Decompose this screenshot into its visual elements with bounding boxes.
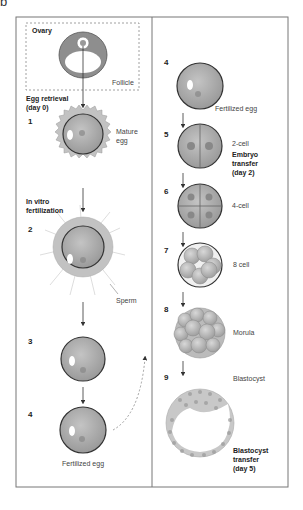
mature-egg-label-2: egg [116,137,128,145]
step-number: 4 [164,58,168,67]
blastocyst-label: Blastocyst [233,375,265,383]
embryo-transfer-line1: Embryo [232,150,258,159]
embryo-transfer-line3: (day 2) [232,168,255,177]
four-cell-label: 4-cell [232,202,249,210]
step-number: 7 [164,246,168,255]
follicle-label: Follicle [112,79,134,87]
mature-egg-label-1: Mature [116,128,138,136]
step-number: 9 [164,373,168,382]
blastocyst-icon [166,389,234,457]
morula-label: Morula [233,329,254,337]
in-vitro-label: In vitro [26,197,49,206]
step-number: 6 [164,187,168,196]
egg-retrieval-label: Egg retrieval [26,94,68,103]
four-cell-embryo-icon [178,184,222,228]
egg-step3-icon [61,337,105,381]
step-number: 2 [28,225,32,234]
step-number: 5 [164,130,168,139]
ovary-label: Ovary [32,26,52,35]
blastocyst-transfer-line3: (day 5) [233,464,256,473]
fertilization-label: fertilization [26,206,63,215]
fertilized-egg-right-icon [177,63,223,109]
ivf-diagram [0,0,303,510]
fertilized-egg-left-icon [60,407,106,453]
step-number: 4 [28,410,32,419]
eight-cell-embryo-icon [178,243,222,287]
dashed-transition-arrow [113,358,145,430]
fertilized-egg-right-label: Fertilized egg [215,105,257,113]
blastocyst-transfer-line2: transfer [233,455,259,464]
blastocyst-transfer-line1: Blastocyst [233,446,268,455]
egg-retrieval-day: (day 0) [26,103,49,112]
egg-with-sperm-icon [40,205,125,295]
two-cell-embryo-icon [178,124,222,168]
step-number: 8 [164,305,168,314]
step-number: 1 [28,117,32,126]
two-cell-label: 2-cell [232,140,249,148]
sperm-label: Sperm [116,297,137,305]
step-number: 3 [28,337,32,346]
embryo-transfer-line2: transfer [232,159,258,168]
mature-egg-icon [55,105,111,158]
fertilized-egg-left-label: Fertilized egg [62,460,104,468]
morula-icon [174,308,225,358]
eight-cell-label: 8 cell [233,261,249,269]
